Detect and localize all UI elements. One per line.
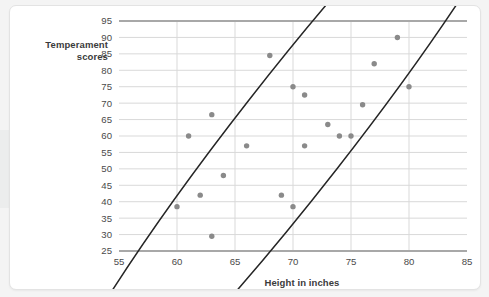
data-point (198, 192, 203, 197)
data-point (302, 143, 307, 148)
data-point (267, 53, 272, 58)
y-axis-label: Temperament scores (30, 39, 108, 63)
page-background: 253035404550556065707580859095 556065707… (0, 0, 489, 297)
y-tick-label: 25 (101, 245, 112, 256)
x-axis-label: Height in inches (128, 277, 476, 288)
data-point (302, 92, 307, 97)
x-tick-label: 60 (172, 256, 183, 267)
data-point (372, 61, 377, 66)
y-tick-label: 35 (101, 213, 112, 224)
x-tick-label: 75 (346, 256, 357, 267)
data-point (209, 112, 214, 117)
y-axis-label-line2: scores (30, 51, 108, 63)
y-tick-label: 50 (101, 163, 112, 174)
x-tick-label: 85 (462, 256, 473, 267)
data-point (174, 204, 179, 209)
data-point (209, 234, 214, 239)
y-tick-label: 60 (101, 130, 112, 141)
y-tick-label: 45 (101, 180, 112, 191)
data-point (244, 143, 249, 148)
x-tick-label: 70 (288, 256, 299, 267)
y-tick-label: 95 (101, 15, 112, 26)
x-tick-label: 65 (230, 256, 241, 267)
data-point (290, 84, 295, 89)
y-tick-label: 40 (101, 196, 112, 207)
y-tick-label: 75 (101, 81, 112, 92)
data-point (186, 133, 191, 138)
data-point (406, 84, 411, 89)
data-point (290, 204, 295, 209)
x-tick-label: 55 (114, 256, 125, 267)
y-tick-label: 70 (101, 98, 112, 109)
y-tick-label: 30 (101, 229, 112, 240)
x-tick-label: 80 (404, 256, 415, 267)
data-point (337, 133, 342, 138)
data-point (221, 173, 226, 178)
data-point (360, 102, 365, 107)
y-tick-label: 65 (101, 114, 112, 125)
data-point (348, 133, 353, 138)
chart-card: 253035404550556065707580859095 556065707… (9, 5, 481, 290)
x-tick-labels: 55606570758085 (114, 256, 473, 267)
data-point (279, 192, 284, 197)
y-tick-label: 55 (101, 147, 112, 158)
y-axis-label-line1: Temperament (30, 39, 108, 51)
data-point (325, 122, 330, 127)
y-tick-label: 80 (101, 65, 112, 76)
data-point (395, 35, 400, 40)
